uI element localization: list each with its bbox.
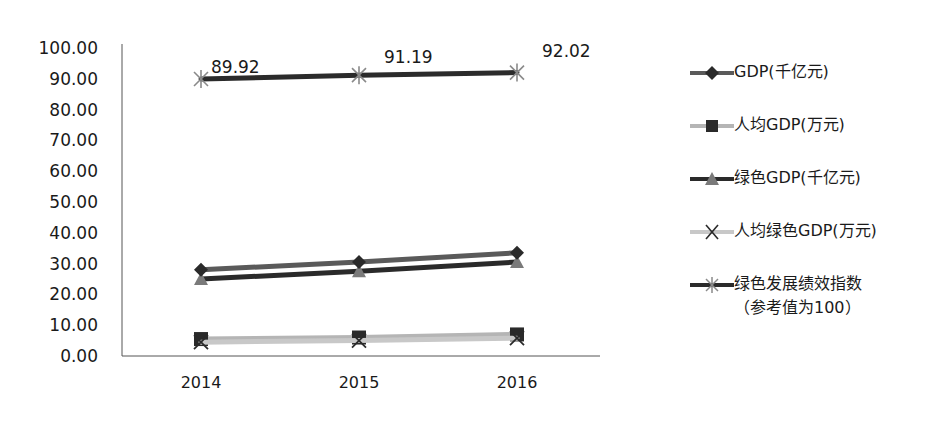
- y-tick-label: 80.00: [49, 100, 98, 120]
- y-tick-label: 50.00: [49, 192, 98, 212]
- legend-item-gdp: GDP(千亿元): [690, 60, 940, 113]
- legend-label: 绿色GDP(千亿元): [734, 166, 861, 190]
- x-tick-label: 2014: [181, 373, 222, 392]
- y-tick-label: 60.00: [49, 161, 98, 181]
- legend-item-green-gdp: 绿色GDP(千亿元): [690, 166, 940, 219]
- data-label: 89.92: [211, 57, 260, 77]
- data-label: 91.19: [384, 47, 433, 67]
- triangle-marker-icon: [690, 168, 734, 190]
- square-marker-icon: [690, 115, 734, 137]
- legend-item-per-capita-green-gdp: 人均绿色GDP(万元): [690, 219, 940, 272]
- legend-label: 人均绿色GDP(万元): [734, 219, 877, 243]
- series-layer: [194, 64, 524, 350]
- legend-item-green-index: 绿色发展绩效指数 （参考值为100）: [690, 272, 940, 325]
- x-marker-icon: [690, 221, 734, 243]
- chart-legend: GDP(千亿元) 人均GDP(万元) 绿色GDP(千亿元) 人均绿色GDP(万元…: [690, 60, 940, 325]
- y-tick-label: 10.00: [49, 315, 98, 335]
- y-tick-label: 100.00: [39, 38, 98, 58]
- x-tick-label: 2016: [497, 373, 538, 392]
- data-labels: 89.9291.1992.02: [211, 41, 591, 77]
- y-tick-label: 20.00: [49, 284, 98, 304]
- y-tick-label: 40.00: [49, 223, 98, 243]
- x-tick-label: 2015: [339, 373, 380, 392]
- legend-label: 绿色发展绩效指数 （参考值为100）: [734, 272, 862, 320]
- y-tick-label: 70.00: [49, 130, 98, 150]
- y-tick-label: 30.00: [49, 254, 98, 274]
- star-marker-icon: [690, 274, 734, 296]
- x-axis: 201420152016: [122, 356, 600, 392]
- diamond-marker-icon: [690, 62, 734, 84]
- y-tick-label: 90.00: [49, 69, 98, 89]
- legend-item-per-capita-gdp: 人均GDP(万元): [690, 113, 940, 166]
- data-label: 92.02: [542, 41, 591, 61]
- legend-label: 人均GDP(万元): [734, 113, 845, 137]
- legend-label: GDP(千亿元): [734, 60, 829, 84]
- y-axis: 0.0010.0020.0030.0040.0050.0060.0070.008…: [39, 38, 122, 366]
- y-tick-label: 0.00: [60, 346, 98, 366]
